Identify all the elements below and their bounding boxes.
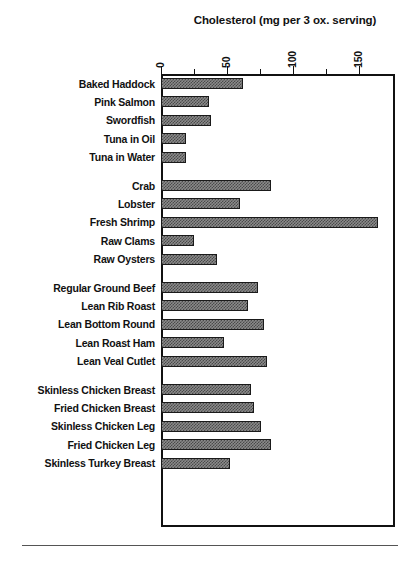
bar [161,96,209,107]
footer-divider [22,545,398,546]
category-label: Fried Chicken Breast [54,402,155,414]
cholesterol-bar-chart: Cholesterol (mg per 3 ox. serving) 05010… [0,0,420,562]
x-tick-mark-major [227,66,228,74]
category-label: Raw Oysters [94,253,155,265]
category-label: Raw Clams [101,235,155,247]
category-label: Skinless Chicken Leg [51,420,155,432]
category-label: Lean Rib Roast [81,300,155,312]
bar [161,439,271,450]
x-tick-mark-major [293,66,294,74]
bar [161,254,217,265]
category-label: Tuna in Oil [104,133,155,145]
x-tick-label-150: 150 [352,51,364,68]
category-label: Tuna in Water [89,151,155,163]
bar [161,337,224,348]
x-tick-label-0: 0 [154,62,166,68]
category-label: Regular Ground Beef [53,282,155,294]
category-label: Lean Roast Ham [76,337,155,349]
x-tick-label-50: 50 [220,57,232,68]
bar [161,133,186,144]
category-label: Swordfish [106,114,155,126]
x-tick-label-100: 100 [286,51,298,68]
category-label: Baked Haddock [79,78,155,90]
x-tick-mark-major [161,66,162,74]
category-label: Crab [132,180,155,192]
x-tick-mark-major [359,66,360,74]
category-label: Lean Bottom Round [58,318,155,330]
bar [161,421,261,432]
bar [161,384,251,395]
category-label: Fried Chicken Leg [67,439,155,451]
bars-layer [161,74,395,527]
bar [161,319,264,330]
bar [161,402,254,413]
bar [161,115,211,126]
category-label: Lobster [118,198,155,210]
bar [161,180,271,191]
category-label: Pink Salmon [94,96,155,108]
bar [161,235,194,246]
category-label: Fresh Shrimp [90,216,155,228]
y-axis-category-labels: Baked HaddockPink SalmonSwordfishTuna in… [0,74,159,527]
bar [161,300,248,311]
bar [161,152,186,163]
bar [161,282,258,293]
bar [161,198,240,209]
category-label: Skinless Chicken Breast [38,384,155,396]
category-label: Lean Veal Cutlet [77,355,155,367]
category-label: Skinless Turkey Breast [45,457,155,469]
bar [161,217,378,228]
bar [161,78,243,89]
x-axis-tick-labels: 050100150 [0,0,420,70]
bar [161,356,267,367]
bar [161,458,230,469]
